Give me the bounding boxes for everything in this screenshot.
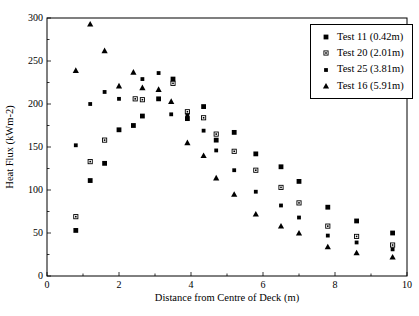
data-point-open-square-dot xyxy=(392,244,394,246)
scatter-plot-figure: 0246810050100150200250300 Distance from … xyxy=(0,0,419,316)
data-point-small-filled-square xyxy=(324,68,328,72)
data-point-open-square-dot xyxy=(280,187,282,189)
data-point-filled-square xyxy=(253,151,258,156)
data-point-filled-triangle xyxy=(213,175,219,181)
data-point-open-square-dot xyxy=(172,83,174,85)
data-point-open-square-dot xyxy=(89,161,91,163)
tick-label: 150 xyxy=(28,141,43,152)
data-point-filled-triangle xyxy=(87,21,93,27)
data-point-small-filled-square xyxy=(297,216,301,220)
data-point-small-filled-square xyxy=(88,102,92,106)
data-point-filled-triangle xyxy=(253,211,259,217)
filled-square-icon xyxy=(320,32,332,42)
data-point-open-square-dot xyxy=(233,151,235,153)
data-point-filled-triangle xyxy=(296,230,302,236)
data-point-filled-square xyxy=(140,114,145,119)
data-point-filled-square xyxy=(102,161,107,166)
legend-label: Test 11 (0.42m) xyxy=(337,32,403,43)
data-point-filled-triangle xyxy=(325,244,331,250)
data-point-filled-square xyxy=(156,96,161,101)
data-point-filled-triangle xyxy=(102,48,108,54)
data-point-small-filled-square xyxy=(254,190,258,194)
tick-label: 0 xyxy=(45,279,50,290)
data-point-open-square-dot xyxy=(298,202,300,204)
data-point-small-filled-square xyxy=(279,204,283,208)
legend-box: Test 11 (0.42m) Test 20 (2.01m) Test 25 … xyxy=(310,24,413,99)
tick-label: 6 xyxy=(261,279,266,290)
data-point-small-filled-square xyxy=(169,112,173,116)
data-point-small-filled-square xyxy=(391,247,395,251)
tick-label: 8 xyxy=(333,279,338,290)
tick-label: 4 xyxy=(189,279,194,290)
data-point-filled-square xyxy=(117,127,122,132)
legend-entry-test-16: Test 16 (5.91m) xyxy=(320,81,410,92)
data-point-filled-square xyxy=(171,77,176,82)
data-point-filled-square xyxy=(390,231,395,236)
data-point-open-square-dot xyxy=(356,236,358,238)
data-point-small-filled-square xyxy=(232,168,236,172)
data-point-filled-triangle xyxy=(116,83,122,89)
tick-label: 2 xyxy=(117,279,122,290)
data-point-filled-square xyxy=(354,219,359,224)
data-point-open-square-dot xyxy=(255,169,257,171)
y-axis-title: Heat Flux (kWm-2) xyxy=(4,105,15,188)
data-point-small-filled-square xyxy=(74,143,78,147)
data-point-open-square-dot xyxy=(134,98,136,100)
tick-label: 50 xyxy=(33,227,43,238)
data-point-open-square-dot xyxy=(203,117,205,119)
data-point-open-square-dot xyxy=(187,111,189,113)
tick-label: 0 xyxy=(38,270,43,281)
data-point-small-filled-square xyxy=(157,71,161,75)
data-point-small-filled-square xyxy=(202,129,206,133)
data-point-filled-triangle xyxy=(130,69,136,75)
data-point-filled-triangle xyxy=(278,223,284,229)
data-point-filled-square xyxy=(232,130,237,135)
data-point-filled-square xyxy=(73,228,78,233)
data-point-filled-square xyxy=(297,179,302,184)
tick-label: 300 xyxy=(28,12,43,23)
tick-label: 10 xyxy=(402,279,412,290)
data-point-small-filled-square xyxy=(117,97,121,101)
data-point-small-filled-square xyxy=(214,149,218,153)
data-point-small-filled-square xyxy=(326,234,330,238)
x-axis-title: Distance from Centre of Deck (m) xyxy=(47,292,407,303)
legend-entry-test-11: Test 11 (0.42m) xyxy=(320,32,410,43)
data-point-filled-square xyxy=(214,138,219,143)
tick-label: 200 xyxy=(28,98,43,109)
data-point-filled-triangle xyxy=(73,67,79,73)
legend-entry-test-25: Test 25 (3.81m) xyxy=(320,64,410,75)
data-point-small-filled-square xyxy=(103,90,107,94)
data-point-filled-triangle xyxy=(139,85,145,91)
tick-label: 250 xyxy=(28,55,43,66)
data-point-small-filled-square xyxy=(141,77,145,81)
data-point-filled-triangle xyxy=(156,86,162,92)
data-point-filled-triangle xyxy=(184,140,190,146)
data-point-filled-triangle xyxy=(354,250,360,256)
data-point-filled-square xyxy=(131,123,136,128)
filled-triangle-icon xyxy=(320,81,332,91)
data-point-open-square-dot xyxy=(142,99,144,101)
data-point-open-square-dot xyxy=(325,53,327,55)
data-point-open-square-dot xyxy=(75,216,77,218)
tick-label: 100 xyxy=(28,184,43,195)
data-point-filled-triangle xyxy=(323,83,329,89)
open-square-icon xyxy=(320,48,332,58)
data-point-small-filled-square xyxy=(186,113,190,117)
data-point-filled-triangle xyxy=(231,191,237,197)
legend-label: Test 25 (3.81m) xyxy=(337,64,404,75)
data-point-filled-square xyxy=(88,178,93,183)
data-point-filled-triangle xyxy=(390,254,396,260)
data-point-filled-square xyxy=(325,205,330,210)
small-square-icon xyxy=(320,65,332,75)
data-point-filled-square xyxy=(201,104,206,109)
legend-entry-test-20: Test 20 (2.01m) xyxy=(320,48,410,59)
data-point-filled-square xyxy=(324,35,329,40)
legend-label: Test 16 (5.91m) xyxy=(337,81,404,92)
data-point-open-square-dot xyxy=(327,225,329,227)
data-point-filled-square xyxy=(279,164,284,169)
data-point-open-square-dot xyxy=(104,139,106,141)
legend-label: Test 20 (2.01m) xyxy=(337,48,404,59)
data-point-filled-triangle xyxy=(201,153,207,159)
data-point-small-filled-square xyxy=(355,241,359,245)
data-point-open-square-dot xyxy=(215,133,217,135)
